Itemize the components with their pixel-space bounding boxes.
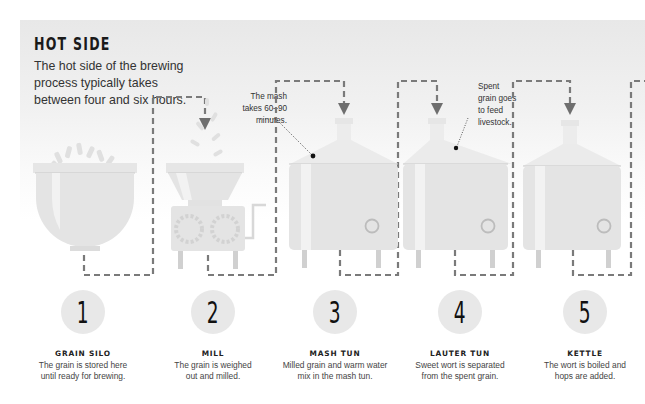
- step-number-badge: 3: [313, 290, 357, 334]
- step-description: The grain is stored here until ready for…: [18, 360, 148, 382]
- step-name: MASH TUN: [270, 349, 400, 358]
- step-number: 2: [207, 295, 219, 330]
- step-number-badge: 1: [61, 290, 105, 334]
- desc-line: until ready for brewing.: [18, 371, 148, 382]
- lauter-tun-icon: [403, 118, 512, 268]
- step-mill: 2 MILL The grain is weighed out and mill…: [148, 290, 278, 382]
- step-mash-tun: 3 MASH TUN Milled grain and warm water m…: [270, 290, 400, 382]
- spent-grain-marker-dot: [454, 146, 458, 150]
- step-number: 3: [329, 295, 341, 330]
- step-description: The wort is boiled and hops are added.: [520, 360, 645, 382]
- desc-line: Sweet wort is separated: [395, 360, 525, 371]
- mash-tun-icon: [289, 118, 398, 268]
- spent-grain-leader-line: [456, 118, 468, 149]
- desc-line: The wort is boiled and: [520, 360, 645, 371]
- mash-leader-line: [260, 119, 313, 156]
- step-name: KETTLE: [520, 349, 645, 358]
- arrow-down-icon: [431, 103, 443, 115]
- step-kettle: 5 KETTLE The wort is boiled and hops are…: [520, 290, 645, 382]
- arrow-icons: [199, 103, 576, 130]
- desc-line: hops are added.: [520, 371, 645, 382]
- step-description: Sweet wort is separated from the spent g…: [395, 360, 525, 382]
- step-description: Milled grain and warm water mix in the m…: [270, 360, 400, 382]
- step-number-badge: 2: [191, 290, 235, 334]
- desc-line: from the spent grain.: [395, 371, 525, 382]
- desc-line: Milled grain and warm water: [270, 360, 400, 371]
- step-number: 5: [579, 295, 591, 330]
- step-number: 4: [454, 295, 466, 330]
- desc-line: out and milled.: [148, 371, 278, 382]
- desc-line: The grain is weighed: [148, 360, 278, 371]
- arrow-down-icon: [338, 103, 350, 115]
- mill-icon: [166, 98, 266, 269]
- step-grain-silo: 1 GRAIN SILO The grain is stored here un…: [18, 290, 148, 382]
- mash-marker-dot: [311, 154, 316, 159]
- desc-line: The grain is stored here: [18, 360, 148, 371]
- arrow-down-icon: [564, 103, 576, 115]
- step-name: MILL: [148, 349, 278, 358]
- step-name: LAUTER TUN: [395, 349, 525, 358]
- step-number-badge: 5: [563, 290, 607, 334]
- step-lauter-tun: 4 LAUTER TUN Sweet wort is separated fro…: [395, 290, 525, 382]
- grain-silo-icon: [33, 143, 137, 251]
- step-description: The grain is weighed out and milled.: [148, 360, 278, 382]
- step-number: 1: [77, 295, 89, 330]
- step-name: GRAIN SILO: [18, 349, 148, 358]
- kettle-icon: [523, 120, 621, 268]
- step-number-badge: 4: [438, 290, 482, 334]
- desc-line: mix in the mash tun.: [270, 371, 400, 382]
